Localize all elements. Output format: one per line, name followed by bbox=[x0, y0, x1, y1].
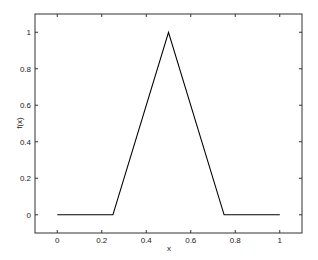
y-tick-label: 1 bbox=[27, 28, 32, 37]
x-tick-label: 0.6 bbox=[185, 236, 197, 245]
axes-box bbox=[35, 14, 302, 233]
x-tick-label: 0.4 bbox=[141, 236, 153, 245]
line-chart: 00.20.40.60.81 00.20.40.60.81 x f(x) bbox=[0, 0, 318, 260]
x-tick-label: 0.2 bbox=[96, 236, 108, 245]
y-axis-label: f(x) bbox=[15, 117, 24, 129]
x-axis-label: x bbox=[167, 244, 171, 253]
x-tick-label: 0 bbox=[55, 236, 60, 245]
y-tick-label: 0.8 bbox=[20, 65, 32, 74]
y-tick-label: 0.4 bbox=[20, 138, 32, 147]
axes-frame bbox=[35, 14, 302, 233]
plot-area bbox=[57, 32, 279, 215]
x-tick-label: 1 bbox=[278, 236, 283, 245]
x-tick-label: 0.8 bbox=[230, 236, 242, 245]
y-tick-label: 0 bbox=[27, 211, 32, 220]
y-tick-label: 0.2 bbox=[20, 174, 32, 183]
series-line bbox=[57, 32, 279, 215]
y-tick-label: 0.6 bbox=[20, 101, 32, 110]
x-axis-ticks: 00.20.40.60.81 bbox=[55, 14, 283, 245]
